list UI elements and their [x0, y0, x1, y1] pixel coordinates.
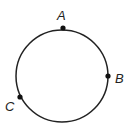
- label-a: A: [56, 8, 66, 23]
- circle-diagram: A B C: [0, 0, 132, 131]
- label-c: C: [5, 99, 15, 114]
- label-b: B: [115, 71, 124, 86]
- point-c: [17, 94, 22, 99]
- point-a: [60, 25, 65, 30]
- circle: [16, 30, 108, 122]
- point-b: [105, 73, 110, 78]
